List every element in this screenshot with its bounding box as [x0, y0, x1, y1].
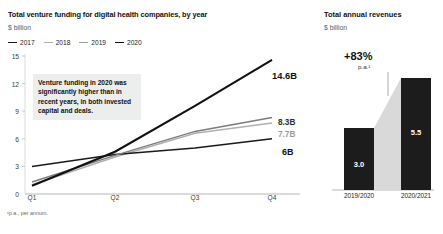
legend-item-2018[interactable]: 2018	[44, 39, 71, 46]
chart-annotation-box: Venture funding in 2020 was significantl…	[33, 74, 141, 120]
line-chart-panel: Total venture funding for digital health…	[0, 0, 310, 234]
bar-value-2019-2020: 3.0	[354, 160, 365, 169]
legend-swatch-2020	[115, 42, 124, 44]
line-chart-title: Total venture funding for digital health…	[8, 10, 207, 19]
footnote-text: ¹p.a., per annum.	[7, 210, 48, 216]
bar-category-2019-2020: 2019/2020	[344, 192, 374, 199]
legend-item-2017[interactable]: 2017	[8, 39, 35, 46]
growth-wedge	[374, 78, 401, 190]
x-tick-q2: Q2	[111, 194, 120, 201]
x-tick-q1: Q1	[28, 194, 37, 201]
infographic-root: Total venture funding for digital health…	[0, 0, 443, 234]
x-tick-q4: Q4	[268, 194, 277, 201]
line-series-2018	[32, 123, 272, 185]
x-axis-labels: Q1 Q2 Q3 Q4	[0, 194, 310, 208]
legend-label-2019: 2019	[91, 39, 106, 46]
x-tick-q3: Q3	[191, 194, 200, 201]
bar-value-2020-2021: 5.5	[411, 128, 422, 137]
legend-item-2020[interactable]: 2020	[115, 39, 142, 46]
end-label-2020: 14.6B	[272, 71, 297, 80]
legend-swatch-2017	[8, 42, 17, 44]
line-series-2017	[32, 139, 272, 167]
legend-label-2017: 2017	[20, 39, 35, 46]
legend-swatch-2018	[44, 42, 53, 44]
end-label-2019: 8.3B	[278, 119, 295, 127]
legend-swatch-2019	[79, 42, 88, 44]
legend-item-2019[interactable]: 2019	[79, 39, 106, 46]
line-chart-legend: 2017 2018 2019 2020	[8, 39, 142, 46]
legend-label-2018: 2018	[56, 39, 71, 46]
legend-label-2020: 2020	[127, 39, 142, 46]
end-label-2018: 7.7B	[278, 131, 295, 139]
bar-2019-2020[interactable]	[344, 128, 374, 190]
end-label-2017: 6B	[282, 148, 294, 157]
line-chart-unit: $ billion	[8, 24, 31, 31]
bar-category-2020-2021: 2020/2021	[401, 192, 431, 199]
bar-chart-panel: Total annual revenues $ billion +83% p.a…	[322, 0, 443, 234]
